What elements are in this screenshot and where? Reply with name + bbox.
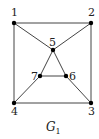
edge-5-6 xyxy=(53,50,66,76)
node-7 xyxy=(38,74,42,78)
node-label-2: 2 xyxy=(88,7,95,18)
graph-caption: G1 xyxy=(46,120,61,136)
graph-canvas xyxy=(0,0,99,139)
node-2 xyxy=(89,21,93,25)
node-1 xyxy=(12,21,16,25)
edge-2-5 xyxy=(53,23,91,50)
node-label-3: 3 xyxy=(88,106,95,117)
edge-1-5 xyxy=(14,23,53,50)
node-label-7: 7 xyxy=(31,71,38,82)
caption-main: G xyxy=(46,120,56,134)
node-label-1: 1 xyxy=(11,7,18,18)
caption-subscript: 1 xyxy=(56,127,61,136)
node-6 xyxy=(64,74,68,78)
node-label-6: 6 xyxy=(69,71,76,82)
node-label-4: 4 xyxy=(11,106,18,117)
node-label-5: 5 xyxy=(49,37,56,48)
edge-5-7 xyxy=(40,50,53,76)
